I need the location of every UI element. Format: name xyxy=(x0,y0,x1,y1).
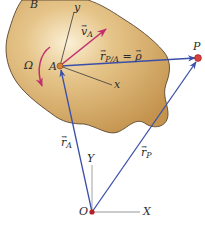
rho-symbol: →ρ xyxy=(135,51,141,62)
angular-velocity-label: Ω xyxy=(24,60,33,71)
velocity-a-label: →vA xyxy=(81,26,93,39)
relative-position-label: →rP/A = →ρ xyxy=(100,51,142,64)
vector-arrow-icon: → xyxy=(100,48,106,55)
vector-arrow-icon: → xyxy=(81,23,87,30)
body-label-b: B xyxy=(30,0,38,10)
diagram-canvas xyxy=(0,0,205,225)
r-a-symbol: →r xyxy=(61,137,66,148)
point-a-marker xyxy=(57,63,63,69)
velocity-a-sub: A xyxy=(87,30,93,39)
equals-sign: = xyxy=(122,50,131,63)
velocity-a-symbol: →v xyxy=(81,26,87,37)
fixed-y-axis-label: Y xyxy=(87,153,94,164)
point-a-label: A xyxy=(49,61,57,72)
fixed-x-axis-label: X xyxy=(143,206,151,217)
r-pa-symbol: →r xyxy=(100,51,105,62)
vector-arrow-icon: → xyxy=(141,144,147,151)
r-pa-sub: P/A xyxy=(105,55,119,64)
r-a-sub: A xyxy=(66,141,72,150)
body-x-axis-label: x xyxy=(114,79,120,90)
vector-arrow-icon: → xyxy=(61,134,67,141)
position-a-label: →rA xyxy=(61,137,72,150)
vector-arrow-icon: → xyxy=(136,48,142,55)
body-y-axis-label: y xyxy=(74,2,80,13)
position-p-label: →rP xyxy=(141,147,152,160)
origin-o-marker xyxy=(89,209,94,214)
point-p-marker xyxy=(195,55,202,62)
r-p-sub: P xyxy=(146,151,151,160)
r-p-symbol: →r xyxy=(141,147,146,158)
point-p-label: P xyxy=(193,41,200,52)
origin-label: O xyxy=(79,206,88,217)
